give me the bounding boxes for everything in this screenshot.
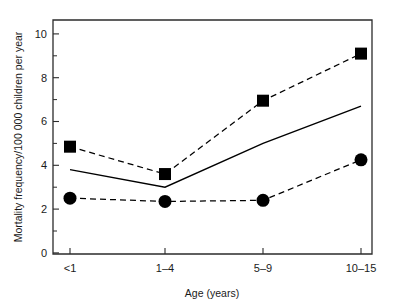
chart-figure: 10 8 6 4 2 0 <1 1–4 5–9 10–15 Age (years… xyxy=(0,0,398,308)
data-point-marker-circle xyxy=(257,194,270,207)
series-line-upper-series xyxy=(70,54,361,174)
x-tick-label: 10–15 xyxy=(346,262,377,274)
y-tick-label: 4 xyxy=(41,159,47,171)
data-point-marker-circle xyxy=(355,153,368,166)
y-tick-label: 0 xyxy=(41,247,47,259)
data-point-marker-square xyxy=(159,168,171,180)
y-tick-label: 10 xyxy=(35,28,47,40)
x-axis-tick-labels: <1 1–4 5–9 10–15 xyxy=(64,262,377,274)
data-point-marker-circle xyxy=(159,195,172,208)
data-point-marker-square xyxy=(257,95,269,107)
y-tick-label: 8 xyxy=(41,72,47,84)
series-line-lower-series xyxy=(70,160,361,202)
data-point-marker-square xyxy=(355,48,367,60)
mortality-line-chart: 10 8 6 4 2 0 <1 1–4 5–9 10–15 Age (years… xyxy=(0,0,398,308)
y-tick-label: 6 xyxy=(41,115,47,127)
series-line-middle-series xyxy=(70,106,361,187)
y-axis-tick-labels: 10 8 6 4 2 0 xyxy=(35,28,47,259)
y-tick-label: 2 xyxy=(41,203,47,215)
plot-frame xyxy=(53,20,372,254)
x-axis-ticks xyxy=(70,248,361,254)
x-tick-label: 5–9 xyxy=(254,262,272,274)
y-axis-title: Mortality frequency/100 000 children per… xyxy=(12,31,24,242)
data-point-marker-circle xyxy=(64,192,77,205)
data-series-layer xyxy=(64,48,368,208)
x-axis-title: Age (years) xyxy=(185,287,239,299)
data-point-marker-square xyxy=(64,141,76,153)
x-tick-label: 1–4 xyxy=(156,262,174,274)
x-tick-label: <1 xyxy=(64,262,77,274)
